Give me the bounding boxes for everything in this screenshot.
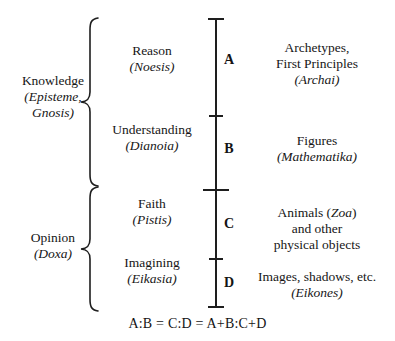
segment-letter-b: B — [222, 141, 236, 157]
object-d-line-1: Images, shadows, etc. — [240, 269, 394, 285]
line-tick-b-c-major — [203, 189, 229, 191]
line-tick-c-d — [209, 258, 223, 260]
object-c-line-3: physical objects — [240, 237, 394, 253]
segment-letter-c: C — [222, 216, 236, 232]
domain-knowledge-name: Knowledge — [0, 73, 106, 89]
faculty-understanding: Understanding (Dianoia) — [88, 122, 216, 154]
ratio-formula: A:B = C:D = A+B:C+D — [0, 316, 395, 332]
segment-letter-d: D — [222, 275, 236, 291]
faculty-faith-greek: (Pistis) — [88, 212, 216, 228]
object-c-greek-inline: Zoa — [331, 205, 352, 220]
faculty-reason-greek: (Noesis) — [88, 59, 216, 75]
object-archetypes: Archetypes, First Principles (Archai) — [240, 40, 394, 88]
faculty-imagining: Imagining (Eikasia) — [88, 255, 216, 287]
object-b-line-1: Figures — [240, 133, 394, 149]
line-tick-bottom-cap — [208, 306, 224, 308]
faculty-understanding-greek: (Dianoia) — [88, 138, 216, 154]
faculty-imagining-greek: (Eikasia) — [88, 271, 216, 287]
object-a-line-1: Archetypes, — [240, 40, 394, 56]
object-figures: Figures (Mathematika) — [240, 133, 394, 165]
line-tick-top-cap — [208, 18, 224, 20]
line-tick-a-b — [209, 115, 223, 117]
faculty-faith-name: Faith — [88, 196, 216, 212]
segment-letter-a: A — [222, 52, 236, 68]
domain-knowledge-greek-2: Gnosis) — [0, 105, 106, 121]
divided-line-axis — [215, 18, 217, 308]
faculty-faith: Faith (Pistis) — [88, 196, 216, 228]
object-a-greek: (Archai) — [240, 72, 394, 88]
object-c-line-1-tail: ) — [352, 205, 357, 220]
object-d-greek: (Eikones) — [240, 285, 394, 301]
object-c-line-2: and other — [240, 221, 394, 237]
object-c-line-1-head: Animals ( — [277, 205, 331, 220]
faculty-understanding-name: Understanding — [88, 122, 216, 138]
domain-opinion-name: Opinion — [0, 230, 106, 246]
faculty-imagining-name: Imagining — [88, 255, 216, 271]
faculty-reason-name: Reason — [88, 43, 216, 59]
domain-knowledge-greek-1: (Episteme, — [0, 89, 106, 105]
object-c-line-1: Animals (Zoa) — [240, 205, 394, 221]
object-images: Images, shadows, etc. (Eikones) — [240, 269, 394, 301]
object-a-line-2: First Principles — [240, 56, 394, 72]
divided-line-diagram: Knowledge (Episteme, Gnosis) Opinion (Do… — [0, 0, 395, 341]
object-animals: Animals (Zoa) and other physical objects — [240, 205, 394, 253]
faculty-reason: Reason (Noesis) — [88, 43, 216, 75]
domain-label-knowledge: Knowledge (Episteme, Gnosis) — [0, 73, 106, 121]
object-b-greek: (Mathematika) — [240, 149, 394, 165]
